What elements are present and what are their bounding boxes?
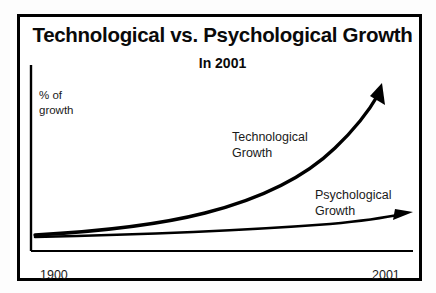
- x-axis-tick-end: 2001: [372, 268, 400, 282]
- technological-growth-label-line2: Growth: [232, 146, 272, 160]
- x-axis-tick-start: 1900: [40, 268, 68, 282]
- chart-frame: Technological vs. Psychological Growth I…: [17, 14, 422, 281]
- y-axis-label-line2: growth: [39, 104, 74, 116]
- psychological-growth-label-line2: Growth: [315, 204, 355, 218]
- technological-growth-label-line1: Technological: [232, 130, 308, 144]
- psychological-growth-label-line1: Psychological: [315, 188, 391, 202]
- technological-growth-label: TechnologicalGrowth: [232, 129, 308, 161]
- psychological-growth-arrowhead: [393, 209, 413, 220]
- y-axis-label-line1: % of: [39, 89, 62, 101]
- y-axis-label: % ofgrowth: [39, 88, 74, 117]
- figure-page: Technological vs. Psychological Growth I…: [0, 0, 436, 293]
- psychological-growth-label: PsychologicalGrowth: [315, 187, 391, 219]
- plot-area: [20, 17, 425, 284]
